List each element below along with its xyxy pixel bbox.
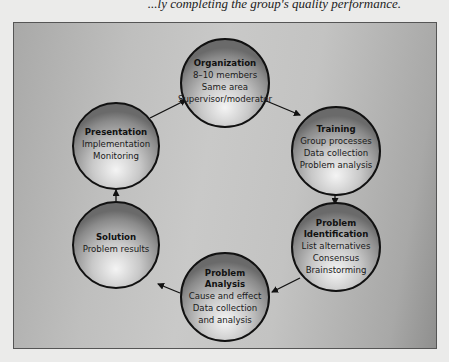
node-title: Problem [205,268,245,278]
node-line: Data collection [193,303,257,313]
quality-circle-cycle-diagram: Organization 8–10 members Same area Supe… [0,0,449,362]
node-line: 8–10 members [193,70,258,80]
node-line: Problem results [83,244,150,254]
node-line: Implementation [82,139,150,149]
node-line: Same area [202,82,248,92]
node-problem-analysis: Problem Analysis Cause and effect Data c… [181,253,269,341]
node-title: Identification [304,229,369,239]
node-presentation: Presentation Implementation Monitoring [73,103,159,189]
node-line: List alternatives [302,241,371,251]
node-line: Brainstorming [306,265,367,275]
node-organization: Organization 8–10 members Same area Supe… [178,39,273,127]
node-line: Data collection [304,148,368,158]
node-line: Problem analysis [300,160,373,170]
node-line: Group processes [300,136,372,146]
node-line: Supervisor/moderator [178,94,273,104]
node-line: Consensus [313,253,360,263]
node-title: Problem [316,218,356,228]
node-training: Training Group processes Data collection… [292,107,380,195]
node-line: Cause and effect [189,291,262,301]
arrow-problem-identification-to-problem-analysis [272,278,300,292]
node-line: Monitoring [93,151,139,161]
node-title: Solution [96,232,136,242]
node-title: Training [316,124,355,134]
node-title: Organization [194,58,256,68]
node-title: Presentation [85,127,147,137]
node-title: Analysis [205,279,245,289]
node-problem-identification: Problem Identification List alternatives… [292,203,380,291]
node-solution: Solution Problem results [73,202,159,288]
node-line: and analysis [198,315,252,325]
arrow-problem-analysis-to-solution [158,284,180,293]
